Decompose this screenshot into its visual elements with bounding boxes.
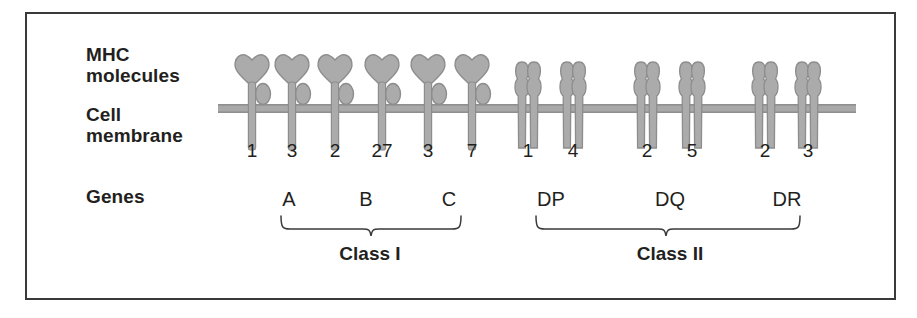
row-label-genes: Genes — [86, 186, 145, 207]
allele-number: 3 — [272, 140, 312, 162]
gene-label-b: B — [344, 188, 388, 211]
gene-label-dp: DP — [529, 188, 573, 211]
gene-label-dq: DQ — [648, 188, 692, 211]
figure-canvas: MHC molecules Cell membrane Genes — [0, 0, 917, 318]
allele-number: 7 — [452, 140, 492, 162]
allele-number: 4 — [553, 140, 593, 162]
allele-number: 2 — [315, 140, 355, 162]
class-1-label: Class I — [290, 243, 450, 265]
class-2-label: Class II — [570, 243, 770, 265]
gene-label-c: C — [427, 188, 471, 211]
allele-number: 1 — [232, 140, 272, 162]
gene-label-a: A — [267, 188, 311, 211]
allele-number: 2 — [627, 140, 667, 162]
allele-number: 1 — [508, 140, 548, 162]
allele-number: 2 — [745, 140, 785, 162]
row-label-cell-membrane: Cell membrane — [86, 104, 183, 146]
allele-number: 27 — [362, 140, 402, 162]
allele-number: 3 — [788, 140, 828, 162]
gene-label-dr: DR — [765, 188, 809, 211]
row-label-mhc-molecules: MHC molecules — [86, 44, 180, 86]
allele-number: 5 — [672, 140, 712, 162]
allele-number: 3 — [408, 140, 448, 162]
